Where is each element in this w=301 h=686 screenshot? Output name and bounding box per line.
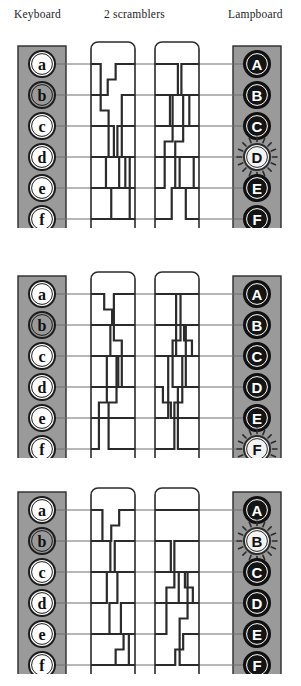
- connection-leads: [55, 510, 244, 665]
- key-label-c: c: [38, 118, 45, 135]
- scrambler-2-box: [155, 488, 199, 674]
- panel-2-canvas: abcdefABCDEF: [0, 258, 301, 458]
- panel-press-3: abcdefABCDEF: [0, 474, 301, 674]
- key-label-a: a: [38, 502, 46, 519]
- header-keyboard: Keyboard: [14, 8, 61, 20]
- key-label-d: d: [38, 379, 47, 396]
- lamp-label-F: F: [252, 657, 261, 674]
- lamp-label-A: A: [252, 56, 263, 73]
- lamp-label-F: F: [252, 211, 261, 228]
- lamp-label-B: B: [252, 87, 263, 104]
- lamp-label-A: A: [252, 286, 263, 303]
- column-headers: Keyboard 2 scramblers Lampboard: [0, 0, 301, 28]
- lamp-label-F: F: [252, 441, 261, 458]
- lamp-label-C: C: [252, 118, 263, 135]
- key-label-d: d: [38, 595, 47, 612]
- key-label-e: e: [38, 626, 45, 643]
- lamp-label-B: B: [252, 317, 263, 334]
- panel-press-1: abcdefABCDEF: [0, 28, 301, 228]
- header-scramblers: 2 scramblers: [104, 8, 165, 20]
- panel-3-canvas: abcdefABCDEF: [0, 474, 301, 674]
- diagram-root: Keyboard 2 scramblers Lampboard abcdefAB…: [0, 0, 301, 686]
- lamp-label-E: E: [252, 410, 262, 427]
- lamp-label-D: D: [252, 149, 263, 166]
- key-label-c: c: [38, 348, 45, 365]
- connection-leads: [55, 64, 244, 219]
- key-label-d: d: [38, 149, 47, 166]
- panel-press-2: abcdefABCDEF: [0, 258, 301, 458]
- key-label-f: f: [39, 211, 45, 228]
- connection-leads: [55, 294, 244, 449]
- lamp-label-C: C: [252, 564, 263, 581]
- panel-1-canvas: abcdefABCDEF: [0, 28, 301, 228]
- key-label-b: b: [38, 533, 47, 550]
- key-label-e: e: [38, 180, 45, 197]
- key-label-b: b: [38, 87, 47, 104]
- lamp-label-D: D: [252, 379, 263, 396]
- key-label-b: b: [38, 317, 47, 334]
- key-label-c: c: [38, 564, 45, 581]
- key-label-a: a: [38, 56, 46, 73]
- lamp-label-C: C: [252, 348, 263, 365]
- lamp-label-E: E: [252, 626, 262, 643]
- key-label-f: f: [39, 657, 45, 674]
- key-label-a: a: [38, 286, 46, 303]
- lamp-label-D: D: [252, 595, 263, 612]
- header-lampboard: Lampboard: [228, 8, 283, 20]
- lamp-label-E: E: [252, 180, 262, 197]
- lamp-label-A: A: [252, 502, 263, 519]
- key-label-f: f: [39, 441, 45, 458]
- key-label-e: e: [38, 410, 45, 427]
- lamp-label-B: B: [252, 533, 263, 550]
